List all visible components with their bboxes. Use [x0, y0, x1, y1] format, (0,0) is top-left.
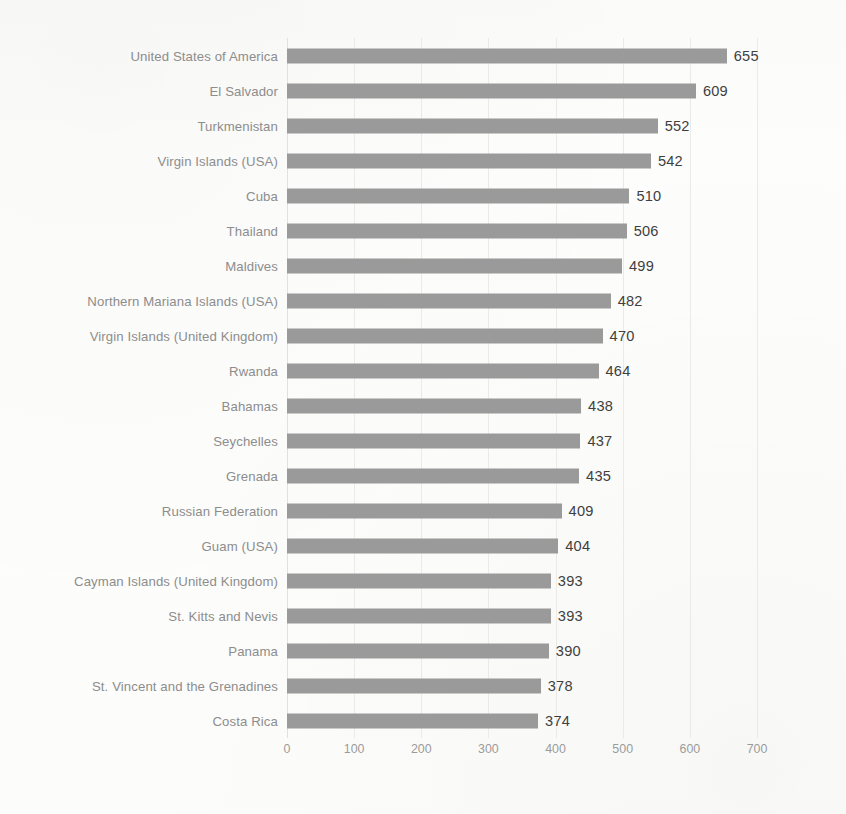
- bar-row: Virgin Islands (USA)542: [287, 143, 757, 178]
- bar-value-label: 438: [588, 398, 613, 414]
- x-tick-label: 500: [612, 742, 633, 756]
- bar-rows: United States of America655El Salvador60…: [287, 38, 757, 738]
- category-label: Turkmenistan: [197, 118, 278, 133]
- bar-row: Bahamas438: [287, 388, 757, 423]
- bar-value-label: 552: [665, 118, 690, 134]
- category-label: Cuba: [246, 188, 278, 203]
- x-tick-label: 0: [284, 742, 291, 756]
- bar: [287, 258, 622, 273]
- bar-value-label: 390: [556, 643, 581, 659]
- category-label: Costa Rica: [213, 713, 279, 728]
- category-label: Grenada: [226, 468, 278, 483]
- bar-value-label: 655: [734, 48, 759, 64]
- bar: [287, 573, 551, 588]
- bar-value-label: 393: [558, 573, 583, 589]
- bar: [287, 118, 658, 133]
- bar-row: El Salvador609: [287, 73, 757, 108]
- category-label: Panama: [228, 643, 278, 658]
- category-label: United States of America: [130, 48, 278, 63]
- category-label: Bahamas: [222, 398, 278, 413]
- bar-value-label: 482: [618, 293, 643, 309]
- bar-chart: United States of America655El Salvador60…: [0, 0, 846, 814]
- bar: [287, 328, 603, 343]
- bar-value-label: 393: [558, 608, 583, 624]
- bar-value-label: 609: [703, 83, 728, 99]
- bar-row: Grenada435: [287, 458, 757, 493]
- bar-value-label: 437: [587, 433, 612, 449]
- category-label: Northern Mariana Islands (USA): [87, 293, 278, 308]
- bar: [287, 538, 558, 553]
- bar-row: Maldives499: [287, 248, 757, 283]
- bar-row: Rwanda464: [287, 353, 757, 388]
- bar-value-label: 378: [548, 678, 573, 694]
- category-label: Cayman Islands (United Kingdom): [74, 573, 278, 588]
- bar-row: Guam (USA)404: [287, 528, 757, 563]
- bar: [287, 398, 581, 413]
- category-label: Rwanda: [229, 363, 278, 378]
- bar: [287, 83, 696, 98]
- bar-value-label: 404: [565, 538, 590, 554]
- x-tick-label: 400: [545, 742, 566, 756]
- bar-row: Northern Mariana Islands (USA)482: [287, 283, 757, 318]
- bar: [287, 433, 580, 448]
- bar-row: Cayman Islands (United Kingdom)393: [287, 563, 757, 598]
- bar-value-label: 542: [658, 153, 683, 169]
- bar-row: Seychelles437: [287, 423, 757, 458]
- bar: [287, 678, 541, 693]
- category-label: Russian Federation: [162, 503, 278, 518]
- category-label: Maldives: [225, 258, 278, 273]
- bar-row: Russian Federation409: [287, 493, 757, 528]
- bar-row: Cuba510: [287, 178, 757, 213]
- bar-value-label: 464: [606, 363, 631, 379]
- bar-row: Virgin Islands (United Kingdom)470: [287, 318, 757, 353]
- x-tick-label: 600: [680, 742, 701, 756]
- bar: [287, 608, 551, 623]
- bar-value-label: 499: [629, 258, 654, 274]
- bar-value-label: 435: [586, 468, 611, 484]
- bar: [287, 503, 562, 518]
- category-label: Virgin Islands (USA): [158, 153, 279, 168]
- bar-row: Turkmenistan552: [287, 108, 757, 143]
- x-axis-ticks: 0100200300400500600700: [287, 742, 757, 766]
- bar-value-label: 409: [569, 503, 594, 519]
- category-label: Guam (USA): [202, 538, 278, 553]
- bar-row: St. Vincent and the Grenadines378: [287, 668, 757, 703]
- bar-value-label: 470: [610, 328, 635, 344]
- category-label: Seychelles: [213, 433, 278, 448]
- category-label: Virgin Islands (United Kingdom): [90, 328, 278, 343]
- bar: [287, 223, 627, 238]
- bar-row: United States of America655: [287, 38, 757, 73]
- bar-value-label: 374: [545, 713, 570, 729]
- plot-area: United States of America655El Salvador60…: [287, 38, 757, 738]
- bar-row: Thailand506: [287, 213, 757, 248]
- x-tick-label: 300: [478, 742, 499, 756]
- x-tick-label: 100: [344, 742, 365, 756]
- bar-row: Costa Rica374: [287, 703, 757, 738]
- category-label: El Salvador: [209, 83, 278, 98]
- bar: [287, 468, 579, 483]
- category-label: St. Kitts and Nevis: [168, 608, 278, 623]
- category-label: St. Vincent and the Grenadines: [92, 678, 278, 693]
- bar: [287, 363, 599, 378]
- x-tick-label: 700: [747, 742, 768, 756]
- bar: [287, 643, 549, 658]
- bar: [287, 713, 538, 728]
- bar-value-label: 506: [634, 223, 659, 239]
- category-label: Thailand: [227, 223, 278, 238]
- bar-row: Panama390: [287, 633, 757, 668]
- gridline: [757, 38, 758, 738]
- x-tick-label: 200: [411, 742, 432, 756]
- bar-value-label: 510: [636, 188, 661, 204]
- bar-row: St. Kitts and Nevis393: [287, 598, 757, 633]
- bar: [287, 293, 611, 308]
- bar: [287, 48, 727, 63]
- bar: [287, 188, 629, 203]
- bar: [287, 153, 651, 168]
